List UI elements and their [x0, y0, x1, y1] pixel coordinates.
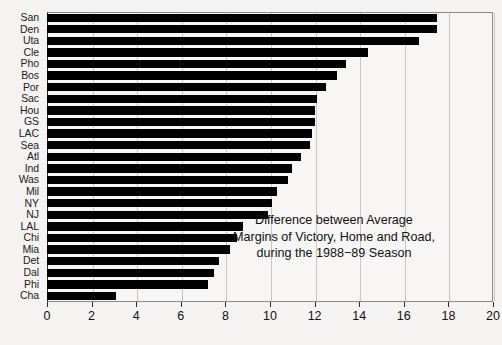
y-tick-label-cha: Cha	[0, 290, 43, 302]
bar-dal	[47, 269, 214, 277]
y-tick-label-dal: Dal	[0, 267, 43, 279]
x-tick-2	[92, 302, 93, 307]
bar-atl	[47, 153, 301, 161]
x-tick-12	[315, 302, 316, 307]
x-tick-6	[181, 302, 182, 307]
bar-sac	[47, 95, 317, 103]
bar-row	[47, 290, 493, 302]
x-tick-label-14: 14	[352, 309, 366, 323]
bar-ny	[47, 199, 272, 207]
bar-row	[47, 151, 493, 163]
bar-row	[47, 186, 493, 198]
x-tick-label-10: 10	[263, 309, 277, 323]
bar-row	[47, 174, 493, 186]
x-tick-label-12: 12	[308, 309, 322, 323]
bar-row	[47, 12, 493, 24]
bar-row	[47, 267, 493, 279]
bar-row	[47, 140, 493, 152]
y-tick-label-bos: Bos	[0, 70, 43, 82]
x-tick-20	[493, 302, 494, 307]
bar-hou	[47, 106, 315, 114]
bar-pho	[47, 60, 346, 68]
x-tick-label-16: 16	[397, 309, 411, 323]
chart-annotation: Difference between Average Margins of Vi…	[200, 212, 468, 262]
bar-cha	[47, 292, 116, 300]
bar-det	[47, 257, 219, 265]
bar-row	[47, 35, 493, 47]
bar-bos	[47, 71, 337, 79]
x-tick-label-8: 8	[222, 309, 229, 323]
bar-row	[47, 58, 493, 70]
y-tick-label-nj: NJ	[0, 209, 43, 221]
bar-cle	[47, 48, 368, 56]
gridline-x-20	[494, 13, 495, 301]
annotation-line-2: Margins of Victory, Home and Road,	[200, 229, 468, 246]
bar-row	[47, 105, 493, 117]
x-tick-0	[47, 302, 48, 307]
x-tick-label-6: 6	[177, 309, 184, 323]
bar-san	[47, 14, 437, 22]
bar-row	[47, 279, 493, 291]
x-tick-label-0: 0	[44, 309, 51, 323]
y-tick-label-sac: Sac	[0, 93, 43, 105]
y-tick-label-lac: LAC	[0, 128, 43, 140]
x-tick-label-20: 20	[486, 309, 500, 323]
bar-row	[47, 24, 493, 36]
bar-sea	[47, 141, 310, 149]
bar-row	[47, 93, 493, 105]
x-tick-label-2: 2	[88, 309, 95, 323]
y-axis-category-labels: SanDenUtaClePhoBosPorSacHouGSLACSeaAtlIn…	[0, 12, 43, 302]
x-tick-10	[270, 302, 271, 307]
bar-row	[47, 82, 493, 94]
annotation-line-3: during the 1988−89 Season	[200, 245, 468, 262]
annotation-line-1: Difference between Average	[200, 212, 468, 229]
x-tick-label-18: 18	[441, 309, 455, 323]
y-tick-label-mil: Mil	[0, 186, 43, 198]
x-tick-18	[448, 302, 449, 307]
bar-row	[47, 128, 493, 140]
bar-por	[47, 83, 326, 91]
y-tick-label-atl: Atl	[0, 151, 43, 163]
bar-phi	[47, 280, 208, 288]
y-tick-label-san: San	[0, 12, 43, 24]
bar-was	[47, 176, 288, 184]
bar-lac	[47, 129, 312, 137]
x-tick-14	[359, 302, 360, 307]
bar-row	[47, 163, 493, 175]
x-tick-label-4: 4	[133, 309, 140, 323]
chart-figure: SanDenUtaClePhoBosPorSacHouGSLACSeaAtlIn…	[0, 0, 502, 345]
bar-ind	[47, 164, 292, 172]
bar-den	[47, 25, 437, 33]
bar-uta	[47, 37, 419, 45]
x-tick-16	[404, 302, 405, 307]
x-tick-8	[225, 302, 226, 307]
bar-row	[47, 116, 493, 128]
bar-row	[47, 47, 493, 59]
x-axis: 02468101214161820	[47, 302, 493, 342]
bar-gs	[47, 118, 315, 126]
bar-mil	[47, 187, 277, 195]
x-tick-4	[136, 302, 137, 307]
bar-row	[47, 198, 493, 210]
bar-row	[47, 70, 493, 82]
